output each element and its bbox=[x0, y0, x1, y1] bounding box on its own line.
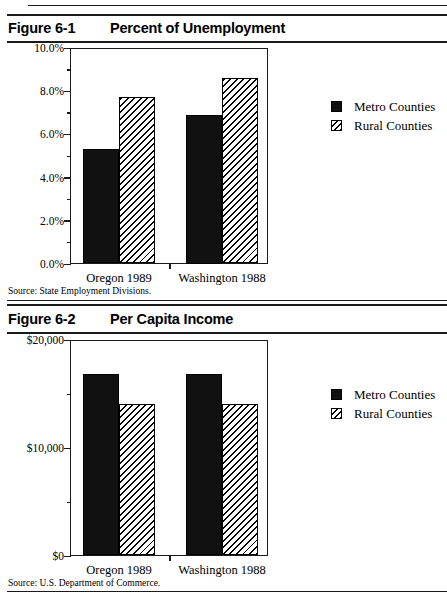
figure-2-ytick-label-10000: $10,000 bbox=[4, 442, 64, 454]
figure-2-title: Per Capita Income bbox=[110, 311, 233, 327]
figure-1-ytick-label-2: 2.0% bbox=[8, 215, 64, 227]
figure-1-legend-label-rural: Rural Counties bbox=[354, 118, 432, 134]
figure-1-bar-rural-oregon bbox=[119, 97, 155, 263]
figure-1-bar-rural-washington bbox=[222, 78, 258, 264]
figure-1-ytick-label-0: 0.0% bbox=[8, 258, 64, 270]
figure-1-ytick-label-4: 4.0% bbox=[8, 172, 64, 184]
hatched-square-icon bbox=[331, 120, 342, 131]
figure-1-yminor-mark-5 bbox=[67, 156, 71, 158]
figure-2-ytick-label-20000: $20,000 bbox=[4, 334, 64, 346]
figure-1-ytick-label-10: 10.0% bbox=[8, 42, 64, 54]
figure-2-ytick-label-0: $0 bbox=[4, 550, 64, 562]
figure-2-yminor-mark-5000 bbox=[67, 502, 71, 504]
figure-2-source-rule-1 bbox=[7, 591, 447, 592]
figure-2-number: Figure 6-2 bbox=[8, 311, 75, 327]
figure-1-yminor-mark-3 bbox=[67, 199, 71, 201]
figure-2-ytick-mark-20000 bbox=[64, 340, 71, 342]
figure-2-xtick-mark-center bbox=[169, 556, 171, 561]
figure-2-legend: Metro Counties Rural Counties bbox=[331, 386, 435, 424]
figure-2-ytick-mark-10000 bbox=[64, 448, 71, 450]
figure-2-xtick-label-oregon: Oregon 1989 bbox=[86, 563, 152, 578]
figure-1-legend-item-rural: Rural Counties bbox=[331, 117, 435, 134]
document-page: Figure 6-1 Percent of Unemployment 10.0%… bbox=[0, 0, 447, 594]
figure-2-legend-label-metro: Metro Counties bbox=[354, 387, 435, 403]
figure-1-ytick-mark-0 bbox=[64, 264, 71, 266]
solid-square-icon bbox=[331, 101, 342, 112]
figure-2-bar-metro-washington bbox=[186, 374, 222, 555]
figure-2-xtick-label-washington: Washington 1988 bbox=[178, 563, 266, 578]
figure-1-xtick-label-washington: Washington 1988 bbox=[178, 271, 266, 286]
figure-2-legend-label-rural: Rural Counties bbox=[354, 406, 432, 422]
figure-1-yminor-mark-1 bbox=[67, 242, 71, 244]
figure-1-yminor-mark-7 bbox=[67, 112, 71, 114]
figure-2-legend-item-rural: Rural Counties bbox=[331, 405, 435, 422]
figure-2-source-note: Source: U.S. Department of Commerce. bbox=[8, 578, 160, 588]
top-rule-2 bbox=[7, 14, 447, 16]
figure-1-number: Figure 6-1 bbox=[8, 20, 75, 36]
figure-1-ytick-mark-2 bbox=[64, 220, 71, 222]
figure-1-xtick-mark-center bbox=[169, 264, 171, 269]
figure-1-bar-metro-washington bbox=[186, 115, 222, 264]
figure-1-source-rule-1 bbox=[7, 300, 447, 301]
figure-1-ytick-label-6: 6.0% bbox=[8, 128, 64, 140]
hatched-square-icon bbox=[331, 408, 342, 419]
figure-1-ytick-mark-6 bbox=[64, 134, 71, 136]
figure-1-legend: Metro Counties Rural Counties bbox=[331, 98, 435, 136]
figure-1-xtick-label-oregon: Oregon 1989 bbox=[86, 271, 152, 286]
figure-1-ytick-mark-4 bbox=[64, 177, 71, 179]
figure-1-ytick-mark-10 bbox=[64, 48, 71, 50]
figure-2-underline bbox=[7, 332, 447, 334]
figure-1-legend-label-metro: Metro Counties bbox=[354, 99, 435, 115]
figure-2-bar-metro-oregon bbox=[83, 374, 119, 555]
figure-2-bar-rural-oregon bbox=[119, 404, 155, 555]
figure-1-legend-item-metro: Metro Counties bbox=[331, 98, 435, 115]
figure-2-legend-item-metro: Metro Counties bbox=[331, 386, 435, 403]
figure-1-bar-metro-oregon bbox=[83, 149, 119, 263]
figure-1-ytick-label-8: 8.0% bbox=[8, 85, 64, 97]
figure-1-yminor-mark-9 bbox=[67, 69, 71, 71]
solid-square-icon bbox=[331, 389, 342, 400]
figure-1-underline bbox=[7, 41, 447, 43]
figure-1-title: Percent of Unemployment bbox=[110, 20, 285, 36]
figure-2-yminor-mark-15000 bbox=[67, 394, 71, 396]
figure-2-bar-rural-washington bbox=[222, 404, 258, 555]
figure-1-source-note: Source: State Employment Divisions. bbox=[8, 286, 151, 296]
figure-1-ytick-mark-8 bbox=[64, 91, 71, 93]
figure-2-ytick-mark-0 bbox=[64, 556, 71, 558]
figure-1-source-rule-2 bbox=[7, 304, 447, 306]
top-rule-1 bbox=[28, 5, 447, 6]
